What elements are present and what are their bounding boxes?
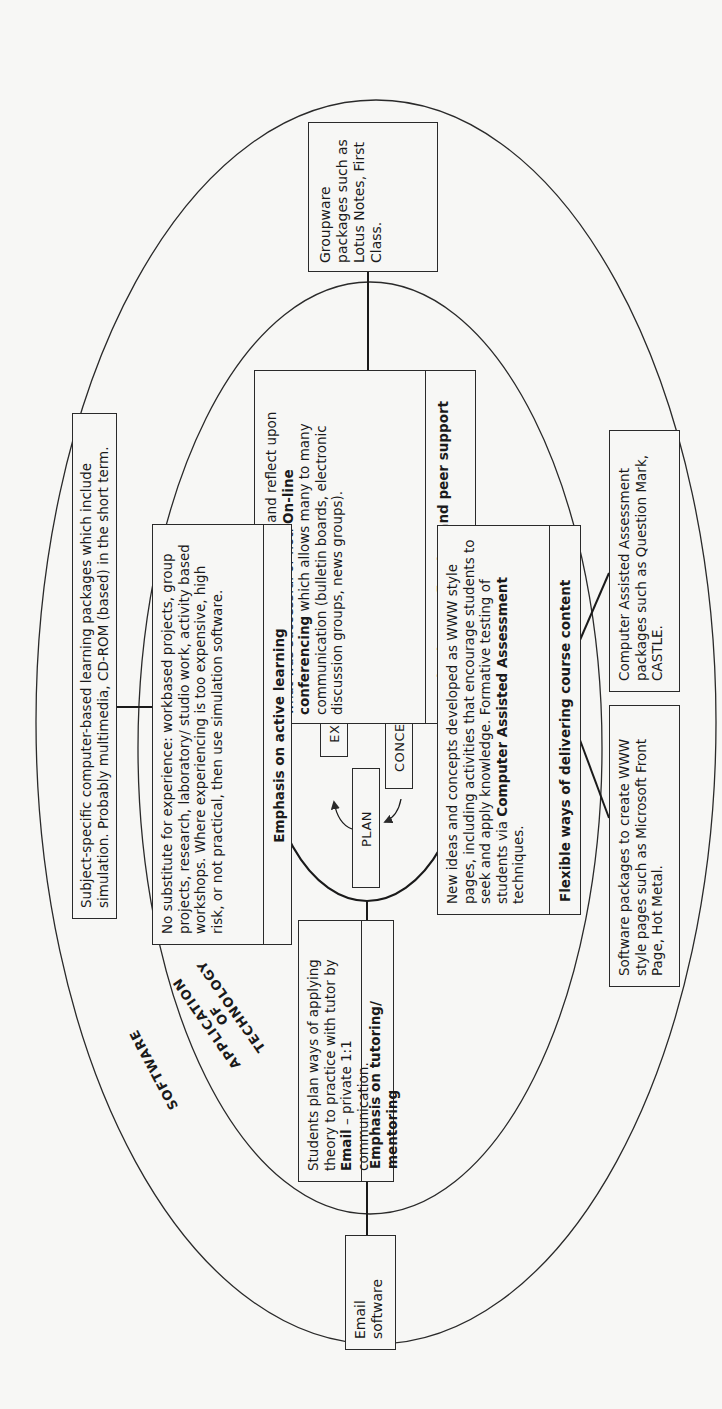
box-course-content: New ideas and concepts developed as WWW … [437,525,581,915]
stage-plan: PLAN [352,768,380,888]
www-packages-text: Software packages to create WWW style pa… [614,712,676,982]
groupware-text: Groupware packages such as Lotus Notes, … [315,129,433,267]
box-groupware: Groupware packages such as Lotus Notes, … [308,122,438,272]
tutoring-emphasis: Emphasis on tutoring/ mentoring [365,927,401,1177]
active-learning-emphasis: Emphasis on active learning [267,531,291,940]
box-email-software: Email software [345,1235,396,1350]
box-subject-specific-software: Subject-specific computer-based learning… [72,413,117,919]
active-learning-description: No substitute for experience: workbased … [157,531,263,940]
box-caa-packages: Computer Assisted Assessment packages su… [609,430,680,692]
course-content-description: New ideas and concepts developed as WWW … [442,530,550,910]
box-www-packages: Software packages to create WWW style pa… [609,705,680,987]
box-active-learning: No substitute for experience: workbased … [152,524,292,945]
course-content-emphasis: Flexible ways of delivering course conte… [553,530,579,910]
subject-specific-text: Subject-specific computer-based learning… [76,420,116,914]
email-software-text: Email software [350,1240,394,1345]
stage-plan-label: PLAN [357,773,379,885]
box-tutoring: Students plan ways of applying theory to… [298,920,394,1182]
caa-packages-text: Computer Assisted Assessment packages su… [614,437,676,687]
